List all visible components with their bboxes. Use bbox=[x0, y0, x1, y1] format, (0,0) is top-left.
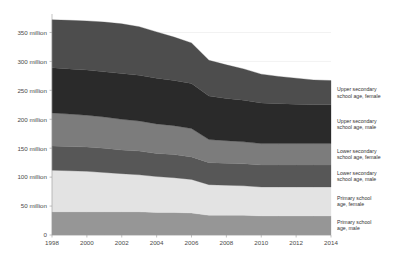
x-axis-tick-label: 2004 bbox=[150, 239, 164, 246]
x-axis-tick-label: 2014 bbox=[324, 239, 338, 246]
y-axis-tick-label: 0 bbox=[44, 231, 48, 238]
x-axis-tick-label: 2002 bbox=[115, 239, 129, 246]
legend-item: Lower secondaryschool age, male bbox=[337, 170, 377, 182]
legend-group: Upper secondaryschool age, femaleUpper s… bbox=[337, 86, 381, 231]
legend-item: Primary schoolage, female bbox=[337, 195, 371, 207]
x-axis-tick-label: 2012 bbox=[289, 239, 303, 246]
legend-label-line1: Upper secondary bbox=[337, 86, 377, 92]
legend-item: Upper secondaryschool age, female bbox=[337, 86, 381, 98]
legend-label-line2: age, female bbox=[337, 201, 364, 207]
legend-item: Lower secondaryschool age, female bbox=[337, 148, 381, 160]
legend-label-line1: Upper secondary bbox=[337, 118, 377, 124]
y-axis-tick-label: 50 million bbox=[21, 202, 48, 209]
x-axis-tick-labels: 199820002002200420062008201020122014 bbox=[45, 239, 338, 246]
legend-label-line2: school age, female bbox=[337, 93, 381, 99]
legend-item: Primary schoolage, male bbox=[337, 219, 371, 231]
x-axis-tick-label: 2008 bbox=[219, 239, 233, 246]
x-axis-tick-label: 2006 bbox=[185, 239, 199, 246]
y-axis-tick-label: 350 million bbox=[17, 29, 47, 36]
x-axis-tick-label: 2000 bbox=[80, 239, 94, 246]
legend-label-line2: school age, male bbox=[337, 124, 376, 130]
chart-canvas: 050 million100 million150 million200 mil… bbox=[0, 0, 403, 262]
y-axis-tick-label: 100 million bbox=[17, 173, 47, 180]
legend-label-line1: Lower secondary bbox=[337, 148, 377, 154]
y-axis-tick-label: 200 million bbox=[17, 116, 47, 123]
stacked-area-chart: 050 million100 million150 million200 mil… bbox=[0, 0, 403, 262]
y-axis-tick-label: 300 million bbox=[17, 58, 47, 65]
legend-label-line2: age, male bbox=[337, 225, 360, 231]
legend-label-line1: Lower secondary bbox=[337, 170, 377, 176]
legend-label-line1: Primary school bbox=[337, 195, 371, 201]
legend-label-line2: school age, female bbox=[337, 154, 381, 160]
x-axis-tick-label: 1998 bbox=[45, 239, 59, 246]
y-axis-tick-labels: 050 million100 million150 million200 mil… bbox=[17, 29, 47, 239]
legend-label-line1: Primary school bbox=[337, 219, 371, 225]
x-axis-tick-label: 2010 bbox=[254, 239, 268, 246]
legend-item: Upper secondaryschool age, male bbox=[337, 118, 377, 130]
area-series-group bbox=[52, 20, 331, 235]
legend-label-line2: school age, male bbox=[337, 176, 376, 182]
y-axis-tick-label: 150 million bbox=[17, 145, 47, 152]
y-axis-tick-label: 250 million bbox=[17, 87, 47, 94]
